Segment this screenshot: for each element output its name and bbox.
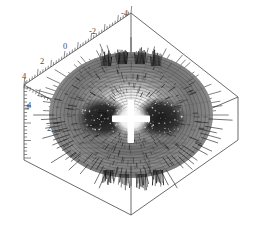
surface-speckle xyxy=(114,105,115,106)
surface-speckle xyxy=(117,131,118,132)
axis-tick xyxy=(78,42,79,49)
axis-tick xyxy=(39,89,41,96)
surface-speckle xyxy=(110,123,112,125)
surface-speckle xyxy=(170,131,171,132)
surface-speckle xyxy=(82,113,83,114)
surface-speckle xyxy=(84,121,85,122)
surface-speckle xyxy=(155,110,157,112)
surface-speckle xyxy=(110,106,111,107)
surface-speckle xyxy=(180,110,181,111)
surface-speckle xyxy=(164,128,165,129)
surface-speckle xyxy=(82,111,83,112)
axis-ticks-z xyxy=(24,88,31,158)
surface-speckle xyxy=(171,114,172,115)
surface-speckle xyxy=(84,110,86,112)
surface-speckle xyxy=(169,121,171,123)
surface-speckle xyxy=(177,120,178,121)
surface-speckle xyxy=(164,135,165,136)
surface-speckle xyxy=(108,104,109,105)
surface-speckle xyxy=(151,126,153,128)
surface-speckle xyxy=(92,128,93,129)
surface-speckle xyxy=(152,128,153,129)
surface-tuft xyxy=(142,51,143,64)
surface-speckle xyxy=(113,131,115,133)
surface-speckle xyxy=(106,102,107,103)
surface-quill xyxy=(69,160,80,170)
surface-speckle xyxy=(112,127,113,128)
surface-speckle xyxy=(165,118,166,119)
plot-figure: -4-2024424 xyxy=(0,0,262,234)
axis-tick xyxy=(104,24,105,31)
surface-speckle xyxy=(178,127,179,128)
axis-tick xyxy=(64,51,65,58)
axis-x-tick-label: 2 xyxy=(40,56,44,66)
surface-speckle xyxy=(108,117,109,118)
surface-speckle xyxy=(152,107,154,109)
surface-tuft xyxy=(139,174,140,189)
surface-speckle xyxy=(117,107,118,108)
axis-tick xyxy=(131,6,132,13)
surface-speckle xyxy=(112,128,113,129)
surface-speckle xyxy=(97,118,98,119)
axis-tick xyxy=(51,60,52,67)
surface-speckle xyxy=(174,119,176,121)
surface-speckle xyxy=(107,110,109,112)
surface-tuft xyxy=(158,55,159,66)
surface-tuft xyxy=(105,170,106,181)
surface-speckle xyxy=(89,110,91,112)
surface-speckle xyxy=(155,103,156,104)
surface-speckle xyxy=(152,115,153,116)
surface-speckle xyxy=(167,103,168,104)
surface-speckle xyxy=(108,133,109,134)
surface-tuft xyxy=(108,50,109,66)
surface-tuft xyxy=(110,170,111,183)
surface-speckle xyxy=(95,129,96,130)
surface-tuft xyxy=(153,51,154,66)
plot-canvas: -4-2024424 xyxy=(0,0,262,234)
surface-speckle xyxy=(178,111,179,112)
surface-speckle xyxy=(159,131,160,132)
surface-speckle xyxy=(91,119,92,120)
surface-tuft xyxy=(124,51,125,64)
surface-speckle xyxy=(101,121,103,123)
axis-x-tick-label: 4 xyxy=(22,71,27,81)
surface-speckle xyxy=(102,104,103,105)
surface-speckle xyxy=(103,121,104,122)
surface-speckle xyxy=(158,123,159,124)
surface-speckle xyxy=(177,128,178,129)
axis-x-tick-label: -4 xyxy=(121,8,129,18)
surface-speckle xyxy=(152,114,153,115)
surface-speckle xyxy=(99,124,101,126)
surface-speckle xyxy=(168,128,169,129)
surface-speckle xyxy=(167,102,168,103)
surface-speckle xyxy=(171,104,173,106)
surface-speckle xyxy=(173,104,174,105)
surface-speckle xyxy=(85,111,86,112)
surface-speckle xyxy=(160,117,161,118)
surface-speckle xyxy=(98,128,100,130)
surface-speckle xyxy=(145,104,146,105)
surface-speckle xyxy=(173,110,175,112)
surface-quill xyxy=(51,150,71,162)
axis-tick xyxy=(37,69,38,76)
surface-speckle xyxy=(107,118,109,120)
surface-speckle xyxy=(156,135,157,136)
axis-x-tick-label: 0 xyxy=(63,41,67,51)
surface-quill xyxy=(166,170,177,188)
surface-tuft xyxy=(126,174,127,186)
surface-speckle xyxy=(101,114,103,116)
surface-speckle xyxy=(159,112,160,113)
surface-speckle xyxy=(85,119,86,120)
surface-speckle xyxy=(100,116,101,117)
surface-speckle xyxy=(82,109,84,111)
surface-speckle xyxy=(159,134,160,135)
surface-speckle xyxy=(111,104,113,106)
surface-speckle xyxy=(106,118,107,119)
surface-speckle xyxy=(181,115,183,117)
surface-speckle xyxy=(182,121,183,122)
surface-speckle xyxy=(174,129,175,130)
axis-tick xyxy=(118,15,119,22)
surface-speckle xyxy=(86,124,87,125)
surface-tuft xyxy=(119,52,120,64)
surface-speckle xyxy=(93,119,95,121)
